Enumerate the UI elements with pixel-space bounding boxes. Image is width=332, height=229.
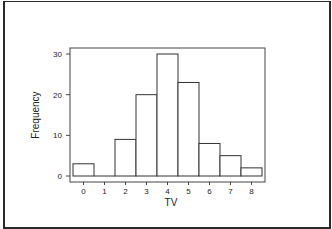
bar-4: [157, 54, 178, 176]
y-tick-label: 20: [53, 91, 62, 100]
bar-8: [241, 168, 262, 176]
bar-0: [73, 164, 94, 176]
y-axis-label: Frequency: [30, 91, 41, 138]
x-tick-label: 2: [123, 187, 128, 196]
x-tick-label: 4: [165, 187, 170, 196]
x-tick-label: 6: [207, 187, 212, 196]
y-tick-label: 0: [58, 172, 63, 181]
bar-7: [220, 156, 241, 176]
bar-6: [199, 143, 220, 176]
histogram-chart: 0102030 012345678 TV Frequency: [0, 0, 332, 229]
bar-5: [178, 82, 199, 176]
x-axis-label: TV: [165, 197, 178, 208]
y-axis: 0102030: [53, 50, 70, 181]
y-tick-label: 10: [53, 131, 62, 140]
x-tick-label: 8: [249, 187, 254, 196]
bar-3: [136, 95, 157, 176]
x-tick-label: 5: [186, 187, 191, 196]
x-axis: 012345678: [81, 182, 254, 196]
bars-group: [73, 54, 262, 176]
x-tick-label: 3: [144, 187, 149, 196]
bar-2: [115, 139, 136, 176]
x-tick-label: 1: [102, 187, 107, 196]
x-tick-label: 0: [81, 187, 86, 196]
x-tick-label: 7: [228, 187, 233, 196]
y-tick-label: 30: [53, 50, 62, 59]
